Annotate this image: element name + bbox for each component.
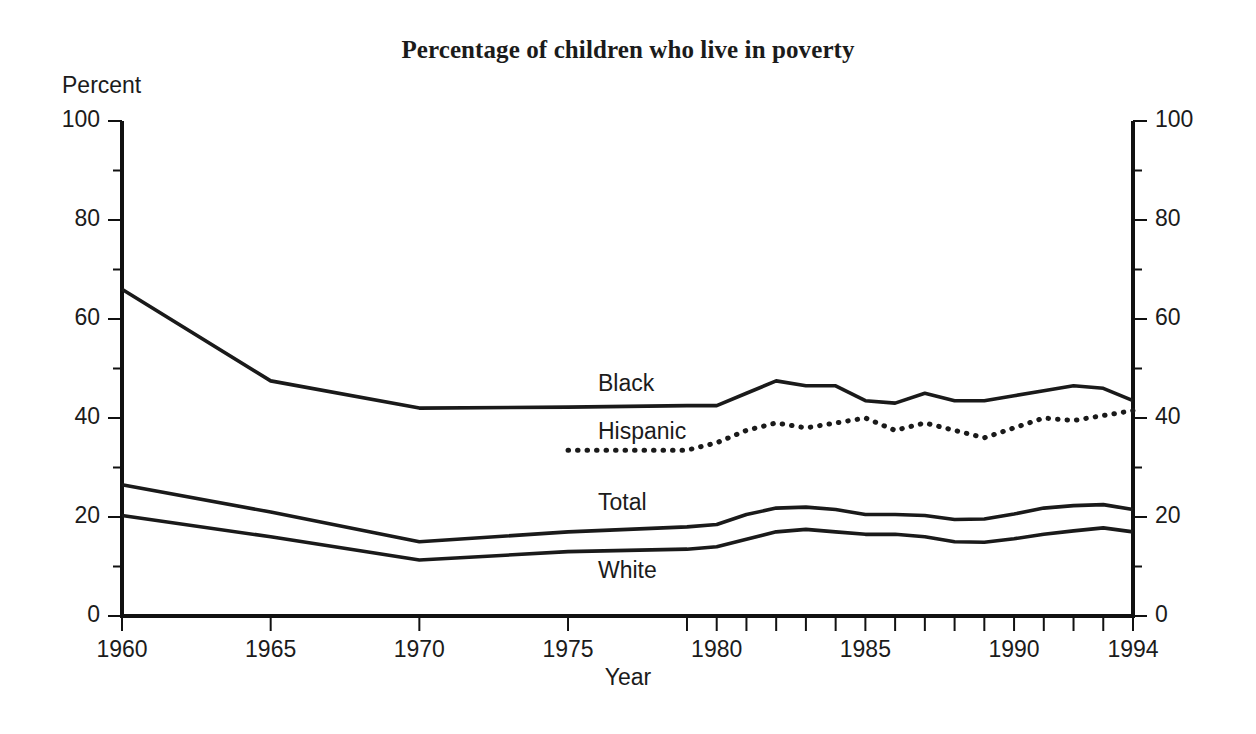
series-line-white <box>122 516 1133 561</box>
y-tick-label-right: 80 <box>1155 205 1225 232</box>
y-tick-label-left: 60 <box>30 304 100 331</box>
x-tick-label: 1960 <box>77 636 167 663</box>
plot-canvas <box>0 0 1256 734</box>
y-tick-label-left: 80 <box>30 205 100 232</box>
y-tick-label-right: 0 <box>1155 601 1225 628</box>
y-axis-label: Percent <box>62 72 141 99</box>
y-tick-label-left: 20 <box>30 502 100 529</box>
x-tick-label: 1975 <box>523 636 613 663</box>
y-tick-label-right: 60 <box>1155 304 1225 331</box>
x-tick-label: 1965 <box>226 636 316 663</box>
y-tick-label-right: 20 <box>1155 502 1225 529</box>
series-label-total: Total <box>598 489 647 516</box>
x-tick-label: 1985 <box>820 636 910 663</box>
x-axis-label: Year <box>0 664 1256 691</box>
y-tick-label-left: 40 <box>30 403 100 430</box>
series-label-hispanic: Hispanic <box>598 418 686 445</box>
poverty-line-chart: Percentage of children who live in pover… <box>0 0 1256 734</box>
x-tick-label: 1994 <box>1088 636 1178 663</box>
y-tick-label-left: 100 <box>30 106 100 133</box>
y-tick-label-right: 100 <box>1155 106 1225 133</box>
series-label-white: White <box>598 557 657 584</box>
chart-title: Percentage of children who live in pover… <box>0 36 1256 64</box>
y-tick-label-left: 0 <box>30 601 100 628</box>
y-tick-label-right: 40 <box>1155 403 1225 430</box>
series-label-black: Black <box>598 370 654 397</box>
x-tick-label: 1970 <box>374 636 464 663</box>
x-tick-label: 1990 <box>969 636 1059 663</box>
x-tick-label: 1980 <box>672 636 762 663</box>
